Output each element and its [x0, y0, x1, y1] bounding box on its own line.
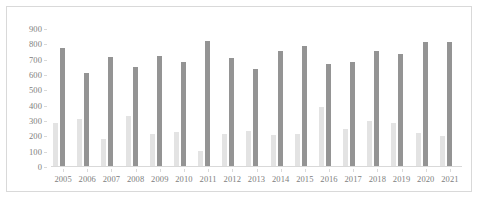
- bar-group: [293, 29, 317, 167]
- y-axis-tick-label: 300: [29, 117, 42, 126]
- y-axis-tick-label: 200: [29, 132, 42, 141]
- bar-series-2-dark-2007[interactable]: [108, 57, 113, 167]
- y-axis-tick-label: 700: [29, 55, 42, 64]
- y-axis-tick-label: 800: [29, 40, 42, 49]
- bar-series-2-dark-2020[interactable]: [423, 42, 428, 167]
- bar-series-2-dark-2018[interactable]: [374, 51, 379, 167]
- bar-group: [317, 29, 341, 167]
- bar-series-1-light-2005[interactable]: [53, 123, 58, 167]
- x-axis-tick-mark: [160, 169, 161, 172]
- x-axis-tick-label-2005: 2005: [54, 175, 71, 184]
- bar-series-1-light-2018[interactable]: [367, 121, 372, 167]
- bar-series-1-light-2016[interactable]: [319, 107, 324, 167]
- x-axis-tick-label-2019: 2019: [393, 175, 410, 184]
- bar-group: [148, 29, 172, 167]
- bar-series-2-dark-2014[interactable]: [278, 51, 283, 167]
- bar-series-2-dark-2015[interactable]: [302, 46, 307, 167]
- bar-series-2-dark-2009[interactable]: [157, 56, 162, 167]
- x-axis-tick-label-2014: 2014: [272, 175, 289, 184]
- x-axis-tick-label-2021: 2021: [441, 175, 458, 184]
- bar-group: [365, 29, 389, 167]
- bar-group: [389, 29, 413, 167]
- bar-series-1-light-2020[interactable]: [416, 133, 421, 168]
- y-axis-tick-mark: [44, 152, 47, 153]
- bar-series-1-light-2021[interactable]: [440, 136, 445, 167]
- x-axis-tick-mark: [208, 169, 209, 172]
- bar-series-1-light-2013[interactable]: [246, 131, 251, 167]
- bar-series-2-dark-2016[interactable]: [326, 64, 331, 167]
- x-axis-tick-mark: [257, 169, 258, 172]
- bar-group: [51, 29, 75, 167]
- x-axis-tick-mark: [87, 169, 88, 172]
- y-axis-tick-label: 600: [29, 71, 42, 80]
- x-axis-tick-label-2011: 2011: [200, 175, 217, 184]
- bar-series-2-dark-2019[interactable]: [398, 54, 403, 167]
- y-axis-tick-mark: [44, 60, 47, 61]
- x-axis-tick-label-2008: 2008: [127, 175, 144, 184]
- bar-group: [196, 29, 220, 167]
- bar-series-2-dark-2017[interactable]: [350, 62, 355, 167]
- x-axis-tick-mark: [305, 169, 306, 172]
- y-axis: 0100200300400500600700800900: [7, 29, 47, 167]
- bar-group: [172, 29, 196, 167]
- x-axis-tick-label-2020: 2020: [417, 175, 434, 184]
- bar-series-2-dark-2013[interactable]: [253, 69, 258, 167]
- plot-inner: [51, 29, 462, 167]
- bar-group: [244, 29, 268, 167]
- chart-frame: 0100200300400500600700800900 20052006200…: [6, 6, 472, 192]
- bar-series-2-dark-2005[interactable]: [60, 48, 65, 167]
- bar-group: [414, 29, 438, 167]
- x-axis-tick-mark: [329, 169, 330, 172]
- x-axis-tick-label-2009: 2009: [151, 175, 168, 184]
- bar-group: [438, 29, 462, 167]
- x-axis-tick-mark: [377, 169, 378, 172]
- bar-series-1-light-2015[interactable]: [295, 134, 300, 167]
- x-axis-tick-mark: [450, 169, 451, 172]
- y-axis-tick-mark: [44, 121, 47, 122]
- x-axis-tick-label-2007: 2007: [103, 175, 120, 184]
- y-axis-tick-label: 400: [29, 101, 42, 110]
- y-axis-tick-mark: [44, 90, 47, 91]
- bar-group: [220, 29, 244, 167]
- y-axis-tick-mark: [44, 29, 47, 30]
- bar-series-1-light-2012[interactable]: [222, 134, 227, 167]
- bar-group: [99, 29, 123, 167]
- bar-series-1-light-2017[interactable]: [343, 129, 348, 167]
- x-axis-tick-mark: [426, 169, 427, 172]
- x-axis-tick-label-2013: 2013: [248, 175, 265, 184]
- x-axis-tick-mark: [111, 169, 112, 172]
- bar-series-1-light-2010[interactable]: [174, 132, 179, 167]
- x-axis-tick-mark: [402, 169, 403, 172]
- bar-series-2-dark-2006[interactable]: [84, 73, 89, 167]
- x-axis-baseline: [51, 166, 462, 167]
- y-axis-tick-mark: [44, 75, 47, 76]
- bar-series-1-light-2007[interactable]: [101, 139, 106, 167]
- x-axis-tick-label-2018: 2018: [369, 175, 386, 184]
- x-axis-tick-mark: [136, 169, 137, 172]
- x-axis-tick-label-2017: 2017: [345, 175, 362, 184]
- y-axis-tick-label: 900: [29, 25, 42, 34]
- bar-series-2-dark-2021[interactable]: [447, 42, 452, 167]
- y-axis-tick-mark: [44, 106, 47, 107]
- bar-series-1-light-2011[interactable]: [198, 151, 203, 167]
- bar-group: [269, 29, 293, 167]
- bar-series-1-light-2019[interactable]: [391, 123, 396, 167]
- x-axis: 2005200620072008200920102011201220132014…: [51, 169, 462, 189]
- bar-series-2-dark-2012[interactable]: [229, 58, 234, 167]
- x-axis-tick-mark: [353, 169, 354, 172]
- bar-group: [341, 29, 365, 167]
- x-axis-tick-label-2010: 2010: [175, 175, 192, 184]
- x-axis-tick-mark: [281, 169, 282, 172]
- bar-series-1-light-2006[interactable]: [77, 119, 82, 167]
- x-axis-tick-mark: [63, 169, 64, 172]
- y-axis-tick-mark: [44, 136, 47, 137]
- bar-series-2-dark-2011[interactable]: [205, 41, 210, 167]
- bar-series-1-light-2008[interactable]: [126, 116, 131, 167]
- bar-series-2-dark-2010[interactable]: [181, 62, 186, 167]
- bar-series-2-dark-2008[interactable]: [133, 67, 138, 167]
- bar-group: [75, 29, 99, 167]
- bar-group: [124, 29, 148, 167]
- y-axis-tick-mark: [44, 167, 47, 168]
- bar-series-1-light-2009[interactable]: [150, 134, 155, 167]
- bar-series-1-light-2014[interactable]: [271, 135, 276, 167]
